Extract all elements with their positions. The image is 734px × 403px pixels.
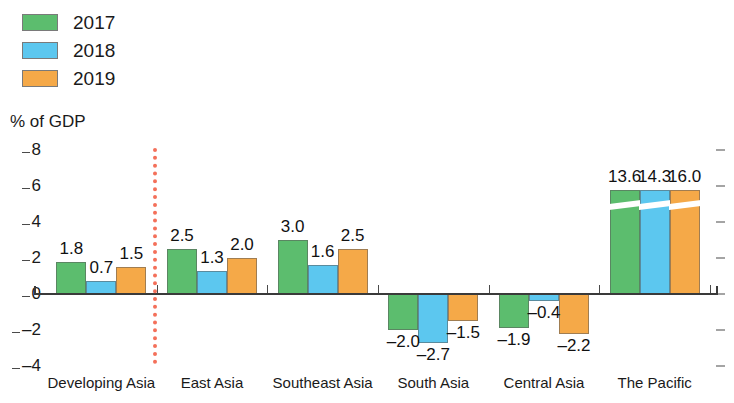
legend-swatch-2018 [22, 42, 58, 59]
bar-2017 [610, 190, 640, 294]
plot-area: 86420–2–4 1.80.71.52.51.32.03.01.62.5–2.… [46, 150, 710, 366]
bar-2019 [670, 190, 700, 294]
bar-2019 [448, 294, 478, 321]
x-group-tick [710, 285, 711, 293]
bar-value-label: –0.4 [527, 303, 560, 323]
y-tick-mark-right [716, 366, 725, 367]
grouped-bar-chart: 2017 2018 2019 % of GDP 86420–2–4 1.80.7… [0, 0, 734, 403]
x-group-tick [267, 285, 268, 293]
bar-2018 [197, 271, 227, 294]
bar-value-label: 3.0 [281, 217, 305, 237]
y-tick-mark [22, 188, 30, 189]
bar-2017 [56, 262, 86, 294]
bar-value-label: 1.6 [311, 242, 335, 262]
y-tick-mark-right [716, 258, 725, 259]
y-tick-mark [12, 332, 20, 333]
x-group-tick [378, 285, 379, 293]
bar-value-label: –2.0 [387, 332, 420, 352]
bar-value-label: 2.5 [341, 226, 365, 246]
bar-2018 [529, 294, 559, 301]
x-axis-label: Developing Asia [48, 374, 156, 391]
axis-break-slash [669, 200, 701, 210]
y-tick-label: 4 [32, 212, 46, 232]
bar-value-label: –2.7 [417, 345, 450, 365]
bar-2017 [167, 249, 197, 294]
axis-right-stub [716, 286, 718, 295]
y-tick-mark [12, 368, 20, 369]
bar-value-label: 16.0 [668, 167, 701, 187]
bar-2017 [388, 294, 418, 330]
y-tick-mark-right [716, 222, 725, 223]
y-tick-mark [22, 152, 30, 153]
bar-2018 [418, 294, 448, 343]
x-group-tick [489, 285, 490, 293]
x-axis-label: The Pacific [618, 374, 692, 391]
x-axis-label: East Asia [181, 374, 244, 391]
x-axis-label: Central Asia [504, 374, 585, 391]
y-tick-label: 6 [32, 176, 46, 196]
bar-value-label: 13.6 [608, 167, 641, 187]
y-tick-mark [22, 296, 30, 297]
x-axis-label: Southeast Asia [273, 374, 373, 391]
y-tick-label: –4 [22, 356, 46, 376]
legend-swatch-2019 [22, 70, 58, 87]
aggregate-separator-line [153, 148, 161, 364]
bar-value-label: 14.3 [638, 167, 671, 187]
legend-label-2018: 2018 [73, 41, 115, 60]
legend-item-2018: 2018 [22, 36, 115, 64]
axis-left-stub [34, 286, 36, 295]
y-tick-mark-right [716, 150, 725, 151]
y-tick-mark-right [716, 186, 725, 187]
y-tick-label: 8 [32, 140, 46, 160]
x-group-tick [599, 285, 600, 293]
bar-2018 [308, 265, 338, 294]
legend-label-2017: 2017 [73, 13, 115, 32]
chart-legend: 2017 2018 2019 [22, 8, 115, 92]
bar-value-label: –2.2 [557, 336, 590, 356]
bar-2018 [640, 190, 670, 294]
y-tick-label: –2 [22, 320, 46, 340]
zero-baseline [34, 293, 716, 295]
axis-break-slash [609, 200, 641, 210]
legend-label-2019: 2019 [73, 69, 115, 88]
axis-break-slash [639, 200, 671, 210]
y-tick-label: 2 [32, 248, 46, 268]
bar-2019 [227, 258, 257, 294]
bar-2017 [499, 294, 529, 328]
bar-value-label: 0.7 [90, 258, 114, 278]
bar-value-label: 1.3 [200, 248, 224, 268]
bar-2019 [559, 294, 589, 334]
bar-2019 [116, 267, 146, 294]
y-tick-mark [22, 260, 30, 261]
bar-value-label: 2.0 [230, 235, 254, 255]
bar-2017 [278, 240, 308, 294]
x-axis-label: South Asia [397, 374, 469, 391]
bar-value-label: 1.5 [120, 244, 144, 264]
y-tick-mark [22, 224, 30, 225]
y-tick-mark-right [716, 330, 725, 331]
bar-value-label: –1.5 [447, 323, 480, 343]
bar-value-label: 1.8 [60, 239, 84, 259]
legend-item-2017: 2017 [22, 8, 115, 36]
bar-2019 [338, 249, 368, 294]
bar-value-label: 2.5 [170, 226, 194, 246]
legend-item-2019: 2019 [22, 64, 115, 92]
y-axis-title: % of GDP [10, 112, 86, 132]
legend-swatch-2017 [22, 14, 58, 31]
bar-value-label: –1.9 [497, 330, 530, 350]
